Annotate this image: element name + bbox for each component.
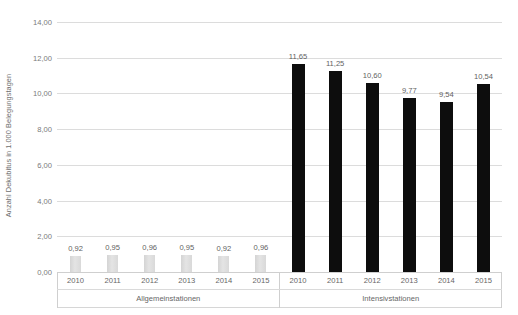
bar-value-label: 0,96 <box>254 243 269 252</box>
gridline: 12,00 <box>57 58 502 59</box>
y-tick-label: 12,00 <box>33 53 52 62</box>
y-tick-label: 14,00 <box>33 18 52 27</box>
x-axis-year-label: 2010 <box>290 276 307 285</box>
bar <box>218 256 229 272</box>
bar <box>292 64 305 272</box>
bar <box>181 255 192 272</box>
bar-value-label: 9,54 <box>439 90 454 99</box>
bar-value-label: 0,95 <box>105 243 120 252</box>
y-tick-label: 6,00 <box>37 160 52 169</box>
bar <box>366 83 379 272</box>
x-axis-year-label: 2015 <box>253 276 270 285</box>
bar-value-label: 10,54 <box>474 72 493 81</box>
gridline: 4,00 <box>57 201 502 202</box>
axis-group-separator <box>279 272 280 308</box>
y-axis-title: Anzahl Dekubitus in 1.000 Belegungstagen <box>0 0 18 290</box>
x-axis-group-label: Allgemeinstationen <box>136 294 200 303</box>
y-tick-label: 0,00 <box>37 268 52 277</box>
x-axis-year-label: 2014 <box>215 276 232 285</box>
x-axis-group-label: Intensivstationen <box>362 294 419 303</box>
bar <box>107 255 118 272</box>
bar <box>255 255 266 272</box>
gridline: 14,00 <box>57 22 502 23</box>
axis-right-edge <box>501 272 502 308</box>
x-axis-year-label: 2012 <box>364 276 381 285</box>
bar <box>403 98 416 272</box>
x-axis-year-label: 2013 <box>178 276 195 285</box>
gridline: 2,00 <box>57 236 502 237</box>
x-axis-year-label: 2012 <box>141 276 158 285</box>
axis-left-edge <box>57 272 58 308</box>
y-tick-label: 4,00 <box>37 196 52 205</box>
bar-value-label: 11,25 <box>326 59 344 68</box>
gridline: 8,00 <box>57 129 502 130</box>
axis-year-separator-line <box>57 289 502 290</box>
bar-value-label: 11,65 <box>289 52 307 61</box>
y-tick-label: 8,00 <box>37 125 52 134</box>
bar <box>329 71 342 272</box>
bar <box>477 84 490 272</box>
y-axis-title-label: Anzahl Dekubitus in 1.000 Belegungstagen <box>5 73 14 216</box>
x-axis-year-label: 2014 <box>438 276 455 285</box>
x-axis-year-label: 2011 <box>104 276 120 285</box>
bar-value-label: 9,77 <box>402 86 417 95</box>
x-axis-year-label: 2015 <box>475 276 492 285</box>
gridline: 10,00 <box>57 93 502 94</box>
bar-value-label: 0,95 <box>179 243 194 252</box>
x-axis-year-label: 2011 <box>327 276 343 285</box>
bar-value-label: 10,60 <box>363 71 382 80</box>
plot-area: 0,002,004,006,008,0010,0012,0014,000,920… <box>57 22 502 272</box>
bar-value-label: 0,96 <box>142 243 157 252</box>
bar <box>440 102 453 272</box>
x-axis-year-label: 2013 <box>401 276 418 285</box>
bar <box>144 255 155 272</box>
category-axis: 201020112012201320142015Allgemeinstation… <box>57 272 502 308</box>
y-tick-label: 2,00 <box>37 232 52 241</box>
bar-chart: Anzahl Dekubitus in 1.000 Belegungstagen… <box>0 0 518 315</box>
x-axis-year-label: 2010 <box>67 276 84 285</box>
bar <box>70 256 81 272</box>
bar-value-label: 0,92 <box>216 244 231 253</box>
gridline: 6,00 <box>57 165 502 166</box>
bar-value-label: 0,92 <box>68 244 83 253</box>
y-tick-label: 10,00 <box>33 89 52 98</box>
